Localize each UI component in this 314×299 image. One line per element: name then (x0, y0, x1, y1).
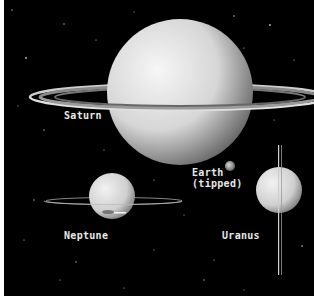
space-scene: Saturn Earth (tipped) Neptune Uranus (4, 0, 314, 296)
saturn-label: Saturn (64, 110, 102, 121)
earth-label: Earth (tipped) (192, 167, 243, 189)
planets-illustration (4, 0, 314, 296)
saturn (30, 19, 314, 165)
uranus (256, 145, 302, 275)
neptune-label: Neptune (64, 230, 108, 241)
neptune (44, 173, 182, 219)
uranus-label: Uranus (222, 230, 260, 241)
